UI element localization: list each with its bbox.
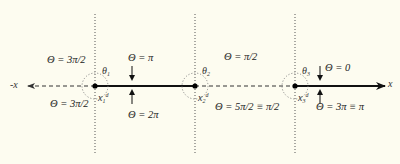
arrow-down-icon (129, 66, 135, 81)
x-subscript: 1 (102, 98, 105, 104)
segment-2-bottom-angle-label: Θ = 5π/2 ≡ π/2 (215, 102, 279, 113)
node-x1-dot (92, 83, 97, 88)
x-superscript: d (205, 92, 208, 98)
segment-3-bottom-angle-label: Θ = 3π ≡ π (316, 102, 364, 113)
diagram-canvas (0, 0, 400, 164)
segment-2-top-angle-label: Θ = π/2 (224, 52, 257, 63)
theta-3-label: θ3 (302, 66, 310, 77)
arrow-up-icon (129, 89, 135, 104)
negative-axis-label: -x (10, 80, 18, 90)
arrow-down-icon (317, 66, 323, 81)
x-subscript: 3 (302, 98, 305, 104)
node-x3-label: x3d (298, 92, 308, 104)
theta-subscript: 1 (107, 71, 110, 77)
theta-2-label: θ2 (202, 66, 210, 77)
segment-3-top-angle-label: Θ = 0 (325, 63, 350, 74)
positive-axis-label: x (388, 79, 392, 89)
theta-subscript: 2 (207, 71, 210, 77)
x-superscript: d (305, 92, 308, 98)
left-top-angle-label: Θ = 3π/2 (47, 55, 86, 66)
left-bottom-angle-label: Θ = 3π/2 (50, 99, 89, 110)
node-x3-dot (292, 83, 297, 88)
x-subscript: 2 (202, 98, 205, 104)
theta-subscript: 3 (307, 71, 310, 77)
node-x1-label: x1d (98, 92, 108, 104)
theta-1-label: θ1 (102, 66, 110, 77)
node-x2-label: x2d (198, 92, 208, 104)
node-x2-dot (192, 83, 197, 88)
segment-1-top-angle-label: Θ = π (128, 53, 153, 64)
segment-1-bottom-angle-label: Θ = 2π (128, 110, 158, 121)
x-superscript: d (105, 92, 108, 98)
